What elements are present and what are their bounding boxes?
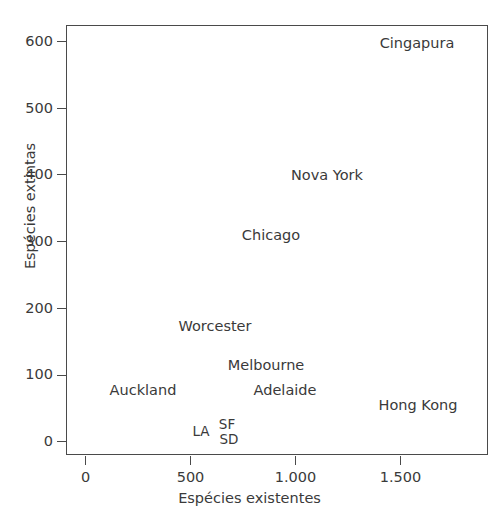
data-point-label: Adelaide xyxy=(254,383,317,398)
x-axis-title: Espécies existentes xyxy=(0,490,499,506)
y-axis-tick-mark xyxy=(57,108,66,109)
y-axis-tick-mark xyxy=(57,241,66,242)
y-axis-tick-label: 200 xyxy=(0,300,53,316)
data-point-label: LA xyxy=(192,425,209,439)
x-axis-tick-mark xyxy=(400,456,401,465)
data-point-label: Nova York xyxy=(291,168,363,183)
y-axis-tick-mark xyxy=(57,375,66,376)
y-axis-tick-mark xyxy=(57,41,66,42)
data-point-label: Worcester xyxy=(178,319,251,334)
y-axis-tick-label: 100 xyxy=(0,366,53,382)
x-axis-tick-mark xyxy=(190,456,191,465)
y-axis-tick-mark xyxy=(57,441,66,442)
data-point-label: Cingapura xyxy=(380,36,455,51)
y-axis-tick-mark xyxy=(57,308,66,309)
y-axis-tick-label: 600 xyxy=(0,33,53,49)
x-axis-tick-mark xyxy=(295,456,296,465)
y-axis-tick-label: 0 xyxy=(0,433,53,449)
data-point-label: Chicago xyxy=(242,228,300,243)
y-axis-tick-label: 500 xyxy=(0,100,53,116)
x-axis-tick-label: 1.500 xyxy=(361,469,441,485)
x-axis-tick-label: 0 xyxy=(46,469,126,485)
x-axis-tick-mark xyxy=(85,456,86,465)
data-point-label: Melbourne xyxy=(228,358,305,373)
data-point-label: Auckland xyxy=(110,383,177,398)
x-axis-tick-label: 500 xyxy=(151,469,231,485)
y-axis-title: Espécies extintas xyxy=(22,116,38,296)
data-point-label: Hong Kong xyxy=(379,398,458,413)
data-point-label: SF xyxy=(219,418,235,432)
data-point-label: SD xyxy=(220,433,239,447)
scatter-chart-figure: 0100200300400500600 05001.0001.500 Cinga… xyxy=(0,0,499,528)
x-axis-tick-label: 1.000 xyxy=(256,469,336,485)
y-axis-tick-mark xyxy=(57,174,66,175)
